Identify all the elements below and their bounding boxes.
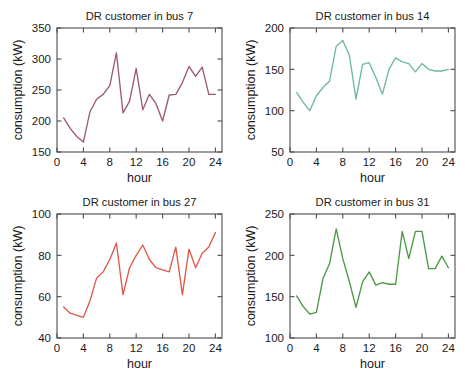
x-tick-label: 8 <box>340 156 346 168</box>
y-tick-label: 200 <box>265 22 284 34</box>
x-tick-label: 24 <box>209 156 222 168</box>
data-series-line <box>297 229 449 314</box>
x-tick-label: 4 <box>80 342 87 354</box>
chart-title: DR customer in bus 7 <box>86 10 194 22</box>
x-tick-label: 12 <box>363 156 376 168</box>
y-tick-label: 150 <box>265 64 284 76</box>
x-tick-label: 20 <box>183 156 196 168</box>
x-tick-label: 12 <box>130 156 143 168</box>
y-tick-label: 100 <box>32 208 51 220</box>
x-tick-label: 0 <box>54 156 60 168</box>
chart-panel-bus27: DR customer in bus 274060801000481216202… <box>0 186 232 372</box>
y-axis-label: consumption (kW) <box>244 40 258 141</box>
y-tick-label: 250 <box>265 208 284 220</box>
y-tick-label: 40 <box>38 332 51 344</box>
chart-svg-bus7: DR customer in bus 715020025030035004812… <box>0 0 232 186</box>
chart-title: DR customer in bus 31 <box>316 196 430 208</box>
chart-panel-bus14: DR customer in bus 145010015020004812162… <box>233 0 465 186</box>
x-tick-label: 24 <box>442 156 455 168</box>
x-tick-label: 16 <box>156 156 169 168</box>
y-tick-label: 350 <box>32 22 51 34</box>
y-tick-label: 150 <box>265 291 284 303</box>
chart-title: DR customer in bus 14 <box>316 10 430 22</box>
y-tick-label: 200 <box>32 115 51 127</box>
x-tick-label: 4 <box>313 342 320 354</box>
x-tick-label: 0 <box>287 156 293 168</box>
y-tick-label: 300 <box>32 53 51 65</box>
x-axis-label: hour <box>127 171 152 185</box>
data-series-line <box>297 40 449 110</box>
x-tick-label: 20 <box>416 342 429 354</box>
x-tick-label: 16 <box>389 156 402 168</box>
data-series-line <box>64 53 216 142</box>
x-tick-label: 8 <box>340 342 346 354</box>
x-tick-label: 0 <box>287 342 293 354</box>
axis-frame <box>290 214 455 338</box>
x-axis-label: hour <box>360 171 385 185</box>
x-tick-label: 0 <box>54 342 60 354</box>
chart-svg-bus27: DR customer in bus 274060801000481216202… <box>0 186 232 372</box>
chart-title: DR customer in bus 27 <box>83 196 197 208</box>
chart-panel-bus7: DR customer in bus 715020025030035004812… <box>0 0 232 186</box>
y-tick-label: 100 <box>265 332 284 344</box>
chart-panel-bus31: DR customer in bus 311001502002500481216… <box>233 186 465 372</box>
x-tick-label: 4 <box>80 156 87 168</box>
x-tick-label: 12 <box>363 342 376 354</box>
x-tick-label: 24 <box>209 342 222 354</box>
y-tick-label: 200 <box>265 250 284 262</box>
x-tick-label: 20 <box>416 156 429 168</box>
y-tick-label: 150 <box>32 146 51 158</box>
y-axis-label: consumption (kW) <box>11 226 25 327</box>
axis-frame <box>57 214 222 338</box>
y-axis-label: consumption (kW) <box>244 226 258 327</box>
chart-svg-bus14: DR customer in bus 145010015020004812162… <box>233 0 465 186</box>
x-tick-label: 8 <box>107 156 113 168</box>
y-tick-label: 250 <box>32 84 51 96</box>
y-tick-label: 60 <box>38 291 51 303</box>
x-tick-label: 4 <box>313 156 320 168</box>
x-tick-label: 16 <box>156 342 169 354</box>
y-tick-label: 80 <box>38 250 51 262</box>
x-axis-label: hour <box>127 357 152 371</box>
y-tick-label: 50 <box>271 146 284 158</box>
figure-container: DR customer in bus 715020025030035004812… <box>0 0 465 372</box>
x-tick-label: 20 <box>183 342 196 354</box>
chart-svg-bus31: DR customer in bus 311001502002500481216… <box>233 186 465 372</box>
y-axis-label: consumption (kW) <box>11 40 25 141</box>
x-axis-label: hour <box>360 357 385 371</box>
y-tick-label: 100 <box>265 105 284 117</box>
axis-frame <box>290 28 455 152</box>
x-tick-label: 24 <box>442 342 455 354</box>
x-tick-label: 16 <box>389 342 402 354</box>
x-tick-label: 12 <box>130 342 143 354</box>
x-tick-label: 8 <box>107 342 113 354</box>
data-series-line <box>64 233 216 318</box>
